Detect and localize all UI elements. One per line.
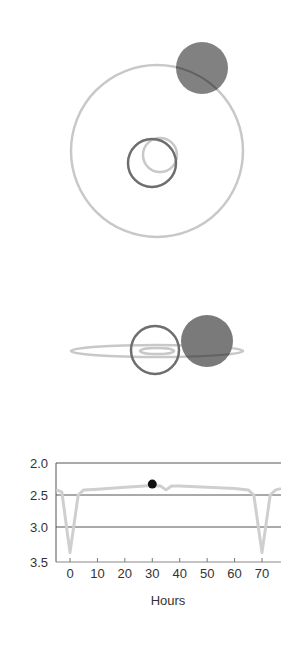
x-tick-label: 30 bbox=[145, 566, 159, 581]
x-tick-label: 60 bbox=[227, 566, 241, 581]
star-wobble-orbit bbox=[143, 138, 177, 172]
x-tick-label: 50 bbox=[200, 566, 214, 581]
x-tick-label: 40 bbox=[172, 566, 186, 581]
x-tick-label: 70 bbox=[255, 566, 269, 581]
star-circle bbox=[128, 139, 176, 187]
gridlines bbox=[56, 463, 281, 527]
top-view-diagram bbox=[71, 42, 243, 237]
light-curve-chart: 010203040506070 2.02.53.03.5 Hours bbox=[30, 456, 281, 608]
planet-disk-side bbox=[181, 315, 233, 367]
x-axis: 010203040506070 bbox=[56, 558, 281, 581]
orbit-lightcurve-figure: 010203040506070 2.02.53.03.5 Hours bbox=[0, 0, 307, 661]
x-axis-title: Hours bbox=[151, 593, 186, 608]
y-tick-label: 2.0 bbox=[30, 456, 48, 471]
x-tick-label: 0 bbox=[66, 566, 73, 581]
y-tick-label: 2.5 bbox=[30, 488, 48, 503]
outer-orbit-path bbox=[71, 65, 243, 237]
current-position-marker bbox=[148, 480, 157, 489]
planet-disk bbox=[176, 42, 228, 94]
y-tick-label: 3.5 bbox=[30, 555, 48, 570]
x-tick-label: 20 bbox=[118, 566, 132, 581]
x-tick-label: 10 bbox=[90, 566, 104, 581]
y-tick-label: 3.0 bbox=[30, 520, 48, 535]
y-axis: 2.02.53.03.5 bbox=[30, 456, 56, 570]
inner-orbit-edge-on bbox=[140, 348, 174, 354]
side-view-diagram bbox=[71, 315, 243, 374]
